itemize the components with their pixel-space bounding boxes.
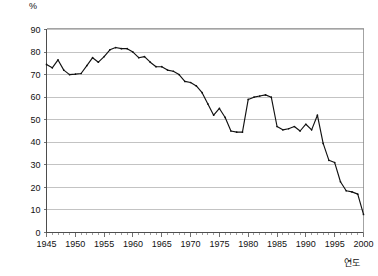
data-point bbox=[305, 123, 307, 125]
y-axis-ticks: 0102030405060708090 bbox=[30, 25, 46, 238]
x-tick-label: 1995 bbox=[325, 239, 345, 249]
data-point bbox=[98, 61, 100, 63]
data-point bbox=[51, 67, 53, 69]
data-point bbox=[207, 103, 209, 105]
y-tick-label: 50 bbox=[30, 115, 40, 125]
line-chart-plot: 0102030405060708090 19451950195519601965… bbox=[0, 0, 378, 276]
x-axis-title: 연도 bbox=[332, 258, 372, 268]
data-point bbox=[340, 181, 342, 183]
data-point bbox=[224, 117, 226, 119]
data-point bbox=[213, 114, 215, 116]
y-tick-label: 90 bbox=[30, 25, 40, 35]
data-point bbox=[86, 65, 88, 67]
data-point bbox=[357, 193, 359, 195]
data-point bbox=[288, 128, 290, 130]
data-point bbox=[351, 191, 353, 193]
x-axis-ticks: 1945195019551960196519701975198019851990… bbox=[36, 233, 373, 249]
data-point bbox=[259, 95, 261, 97]
x-tick-label: 2000 bbox=[353, 239, 373, 249]
data-point bbox=[57, 59, 59, 61]
data-point bbox=[293, 126, 295, 128]
data-point bbox=[138, 57, 140, 59]
data-point bbox=[253, 96, 255, 98]
data-point bbox=[109, 49, 111, 51]
data-point bbox=[132, 51, 134, 53]
x-tick-label: 1945 bbox=[36, 239, 56, 249]
data-point bbox=[103, 56, 105, 58]
x-tick-label: 1955 bbox=[94, 239, 114, 249]
data-point bbox=[115, 47, 117, 49]
y-tick-label: 30 bbox=[30, 160, 40, 170]
data-point bbox=[276, 126, 278, 128]
x-tick-label: 1980 bbox=[238, 239, 258, 249]
data-point bbox=[149, 61, 151, 63]
data-point bbox=[184, 81, 186, 83]
x-tick-label: 1965 bbox=[152, 239, 172, 249]
data-point bbox=[144, 56, 146, 58]
data-point bbox=[317, 114, 319, 116]
data-point bbox=[322, 143, 324, 145]
x-tick-label: 1970 bbox=[181, 239, 201, 249]
y-tick-label: 20 bbox=[30, 183, 40, 193]
y-tick-label: 80 bbox=[30, 47, 40, 57]
x-tick-label: 1960 bbox=[123, 239, 143, 249]
data-point bbox=[201, 92, 203, 94]
data-point bbox=[299, 130, 301, 132]
data-point bbox=[167, 69, 169, 71]
data-point bbox=[282, 129, 284, 131]
data-point bbox=[46, 64, 48, 66]
data-point bbox=[155, 66, 157, 68]
y-tick-label: 10 bbox=[30, 205, 40, 215]
chart-container: % 0102030405060708090 194519501955196019… bbox=[0, 0, 378, 276]
data-point bbox=[247, 99, 249, 101]
data-point bbox=[219, 108, 221, 110]
x-tick-label: 1985 bbox=[267, 239, 287, 249]
data-point bbox=[178, 74, 180, 76]
data-point bbox=[161, 66, 163, 68]
data-line-series-1 bbox=[47, 48, 364, 215]
data-point bbox=[363, 214, 365, 216]
data-point bbox=[311, 129, 313, 131]
data-point bbox=[242, 131, 244, 133]
data-point bbox=[328, 159, 330, 161]
data-point bbox=[345, 190, 347, 192]
data-point bbox=[69, 74, 71, 76]
data-point bbox=[230, 130, 232, 132]
data-point bbox=[74, 73, 76, 75]
y-tick-label: 70 bbox=[30, 70, 40, 80]
data-point bbox=[92, 57, 94, 59]
data-point bbox=[190, 82, 192, 84]
data-point bbox=[172, 70, 174, 72]
data-point bbox=[121, 48, 123, 50]
data-point bbox=[265, 94, 267, 96]
data-point bbox=[334, 162, 336, 164]
y-tick-label: 60 bbox=[30, 92, 40, 102]
data-point bbox=[236, 131, 238, 133]
data-series-line bbox=[46, 47, 365, 216]
data-point bbox=[270, 96, 272, 98]
data-point bbox=[80, 73, 82, 75]
data-point bbox=[126, 48, 128, 50]
y-tick-label: 0 bbox=[35, 228, 40, 238]
data-point bbox=[63, 69, 65, 71]
x-tick-label: 1975 bbox=[209, 239, 229, 249]
data-point bbox=[196, 85, 198, 87]
y-tick-label: 40 bbox=[30, 137, 40, 147]
x-tick-label: 1990 bbox=[296, 239, 316, 249]
x-tick-label: 1950 bbox=[65, 239, 85, 249]
